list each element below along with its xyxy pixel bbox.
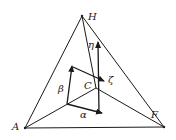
edge-h-a <box>25 16 82 128</box>
label-beta: β <box>58 84 64 94</box>
vector-beta <box>67 66 72 104</box>
label-zeta: ζ <box>108 75 113 85</box>
label-a: A <box>12 122 19 132</box>
vector-zeta <box>73 67 104 81</box>
label-f: F <box>151 110 158 120</box>
label-h: H <box>88 12 97 22</box>
label-eta: η <box>88 40 94 50</box>
edge-h-c <box>82 16 96 88</box>
label-c: C <box>84 81 92 91</box>
point-h <box>81 15 83 17</box>
edge-a-f <box>25 127 164 128</box>
point-f <box>163 126 165 128</box>
edge-c-f <box>96 88 164 127</box>
label-alpha: α <box>80 110 87 120</box>
vector-eta <box>98 42 99 113</box>
point-a <box>24 127 26 129</box>
